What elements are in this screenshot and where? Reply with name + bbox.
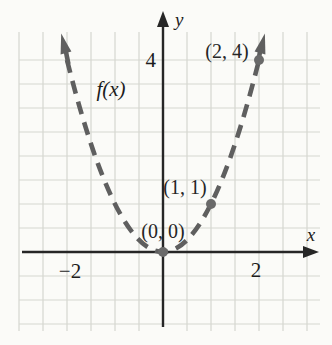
y-axis-label: y [173, 9, 184, 30]
chart-canvas: 4 −2 2 x y f(x) (0, 0) (1, 1) (2, 4) [0, 0, 332, 345]
data-point-1-1 [206, 199, 216, 209]
x-tick-label-2: 2 [251, 258, 262, 282]
y-tick-label-4: 4 [146, 48, 157, 72]
point-label-1-1: (1, 1) [163, 176, 206, 199]
curve-arrow-left-icon [61, 34, 72, 55]
x-axis-arrow-icon [303, 246, 319, 258]
point-label-origin: (0, 0) [141, 220, 184, 243]
point-label-2-4: (2, 4) [205, 40, 248, 63]
y-axis-arrow-icon [157, 11, 169, 27]
curve-label-fx: f(x) [96, 77, 125, 101]
curve-arrow-right-icon [255, 34, 266, 55]
x-tick-label-neg2: −2 [59, 259, 81, 283]
curve-arrow-shaft-left [66, 52, 68, 64]
data-point-2-4 [254, 55, 264, 65]
data-point-0-0 [158, 247, 168, 257]
parabola-figure: 4 −2 2 x y f(x) (0, 0) (1, 1) (2, 4) [0, 0, 332, 345]
x-axis-label: x [306, 224, 316, 245]
